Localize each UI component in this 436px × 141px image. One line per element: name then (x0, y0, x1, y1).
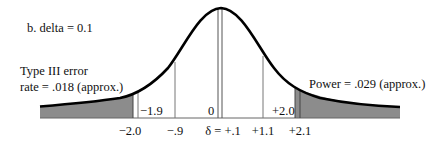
tick-neg2.0: −2.0 (119, 124, 142, 138)
tick-pos1.1: +1.1 (252, 124, 275, 138)
tick-pos2.1: +2.1 (289, 124, 312, 138)
normal-distribution-figure: b. delta = 0.1 Type III error rate = .01… (0, 0, 436, 141)
inner-label-neg1.9: −1.9 (140, 104, 163, 118)
tick-neg0.9: −.9 (167, 124, 183, 138)
tick-delta: δ = +.1 (205, 124, 241, 138)
chart-title: b. delta = 0.1 (27, 21, 93, 35)
inner-label-pos2.0: +2.0 (272, 104, 295, 118)
inner-label-zero: 0 (208, 104, 214, 118)
type3-label-line1: Type III error (20, 64, 88, 78)
type3-label-line2: rate = .018 (approx.) (20, 80, 123, 94)
power-label: Power = .029 (approx.) (309, 77, 425, 91)
